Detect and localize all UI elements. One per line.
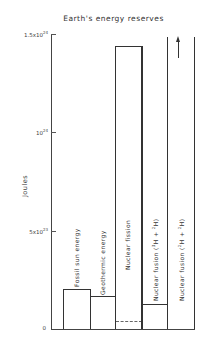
y-tick-low <box>51 231 56 232</box>
bar-label-fusion-3h: Nuclear fusion (3H + 2H) <box>151 219 159 301</box>
bar-label-fusion-2h: Nuclear fusion (2H + 2H) <box>177 219 185 301</box>
bar-label-geothermic: Geothermic energy <box>99 230 106 295</box>
fission-dashed-line <box>116 321 142 322</box>
y-tick-label-mid: 1024 <box>18 128 48 136</box>
y-tick-label-zero: 0 <box>16 325 46 331</box>
y-tick-mid <box>51 132 56 133</box>
y-axis-line <box>51 34 52 329</box>
bar-nuclear-fusion-3h-2h <box>142 304 168 329</box>
chart-title: Earth's energy reserves <box>0 14 207 23</box>
x-axis-baseline <box>51 329 195 330</box>
fission-column-right-edge <box>141 46 142 329</box>
bar-geothermic-energy <box>90 296 116 329</box>
y-tick-label-low: 5x1023 <box>18 227 48 235</box>
y-axis-label: Joules <box>21 175 29 197</box>
y-tick-label-top: 1.5x1024 <box>18 30 48 38</box>
bar-label-fossil: Fossil sun energy <box>73 228 80 287</box>
bar-label-fission: Nuclear fission <box>124 220 131 270</box>
bar-nuclear-fission <box>115 46 143 329</box>
bar-fossil-sun-energy <box>63 289 91 329</box>
y-tick-top <box>51 34 56 35</box>
